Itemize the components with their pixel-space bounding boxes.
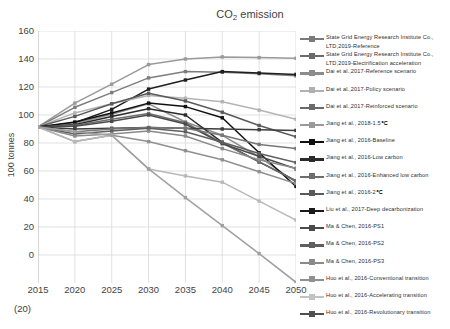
series-marker bbox=[184, 130, 187, 133]
legend-item[interactable]: Huo et al., 2016-Accelerating transition bbox=[300, 291, 450, 302]
plot-background bbox=[38, 31, 296, 283]
legend-marker-icon bbox=[300, 51, 324, 61]
series-marker bbox=[184, 57, 187, 60]
legend-item-label: Jiang et al., 2016-Baseline bbox=[326, 136, 395, 145]
series-marker bbox=[184, 113, 187, 116]
series-marker bbox=[294, 129, 296, 132]
series-marker bbox=[184, 134, 187, 137]
legend-item[interactable]: Jiang et al., 2018-1.5℃ bbox=[300, 119, 450, 130]
chart-title: CO2 emission bbox=[175, 8, 325, 22]
x-axis-tick-label: 2045 bbox=[249, 285, 270, 295]
legend-marker-icon bbox=[300, 258, 324, 268]
legend-item[interactable]: Dai et al.,2017-Reinforced scenario bbox=[300, 102, 450, 113]
series-marker bbox=[221, 181, 224, 184]
series-marker bbox=[184, 122, 187, 125]
series-marker bbox=[147, 87, 150, 90]
legend-marker-icon bbox=[300, 103, 324, 113]
legend-item[interactable]: Huo et al., 2016-Revolutionary transitio… bbox=[300, 308, 450, 319]
legend-marker-icon bbox=[300, 86, 324, 96]
legend-item[interactable]: Ma & Chen, 2016-PS1 bbox=[300, 222, 450, 233]
chart-title-tail: emission bbox=[237, 8, 283, 20]
series-marker bbox=[221, 100, 224, 103]
y-axis-tick-label: 160 bbox=[2, 26, 34, 36]
y-axis-tick-label: 140 bbox=[2, 54, 34, 64]
y-axis-tick-label: 120 bbox=[2, 82, 34, 92]
legend-item[interactable]: Dai et al.,2017-Reference scenario bbox=[300, 67, 450, 78]
series-marker bbox=[257, 143, 260, 146]
legend-item[interactable]: Jiang et al., 2016-Enhanced low carbon bbox=[300, 171, 450, 182]
series-marker bbox=[110, 134, 113, 137]
legend-item[interactable]: Ma & Chen, 2016-PS3 bbox=[300, 257, 450, 268]
series-marker bbox=[73, 106, 76, 109]
series-marker bbox=[294, 57, 296, 60]
series-marker bbox=[221, 111, 224, 114]
legend-item-label: Dai et al.,2017-Reinforced scenario bbox=[326, 102, 418, 111]
series-marker bbox=[73, 115, 76, 118]
y-axis-tick-label: 100 bbox=[2, 110, 34, 120]
legend-item-label: Jiang et al., 2016-2℃ bbox=[326, 188, 383, 197]
series-marker bbox=[257, 152, 260, 155]
legend-marker-icon bbox=[300, 137, 324, 147]
chart-page: CO2 emission 020406080100120140160 100 t… bbox=[0, 0, 450, 329]
series-marker bbox=[110, 102, 113, 105]
series-marker bbox=[184, 127, 187, 130]
series-marker bbox=[147, 92, 150, 95]
legend-item-label: Dai et al.,2017-Reference scenario bbox=[326, 67, 416, 76]
plot-area bbox=[38, 31, 296, 283]
legend-marker-icon bbox=[300, 154, 324, 164]
legend-item[interactable]: Jiang et al., 2016-Low carbon bbox=[300, 153, 450, 164]
series-marker bbox=[257, 158, 260, 161]
series-marker bbox=[184, 196, 187, 199]
series-marker bbox=[184, 105, 187, 108]
series-marker bbox=[257, 199, 260, 202]
chart-title-main: CO bbox=[216, 8, 233, 20]
legend-item[interactable]: Liu et al., 2017-Deep decarbonization bbox=[300, 205, 450, 216]
legend-item-label: Jiang et al., 2016-Low carbon bbox=[326, 153, 403, 162]
series-marker bbox=[73, 101, 76, 104]
x-axis-tick-label: 2025 bbox=[101, 285, 122, 295]
legend-marker-icon bbox=[300, 309, 324, 319]
legend-item[interactable]: State Grid Energy Research Institute Co.… bbox=[300, 50, 450, 67]
series-marker bbox=[184, 149, 187, 152]
legend-marker-icon bbox=[300, 206, 324, 216]
legend-item[interactable]: Ma & Chen, 2016-PS2 bbox=[300, 239, 450, 250]
legend-marker-icon bbox=[300, 275, 324, 285]
legend-item[interactable]: Huo et al., 2016-Conventional transition bbox=[300, 274, 450, 285]
series-marker bbox=[147, 101, 150, 104]
legend-marker-icon bbox=[300, 189, 324, 199]
series-marker bbox=[147, 113, 150, 116]
series-marker bbox=[221, 147, 224, 150]
legend-item[interactable]: Jiang et al., 2016-2℃ bbox=[300, 188, 450, 199]
legend-item[interactable]: Jiang et al., 2016-Baseline bbox=[300, 136, 450, 147]
series-marker bbox=[147, 107, 150, 110]
legend-marker-icon bbox=[300, 68, 324, 78]
legend-item-label: Ma & Chen, 2016-PS2 bbox=[326, 239, 384, 248]
legend-marker-icon bbox=[300, 240, 324, 250]
legend-item-label: Ma & Chen, 2016-PS3 bbox=[326, 257, 384, 266]
series-marker bbox=[110, 91, 113, 94]
x-axis-tick-label: 2020 bbox=[64, 285, 85, 295]
x-axis-tick-label: 2030 bbox=[138, 285, 159, 295]
legend-item-label: State Grid Energy Research Institute Co.… bbox=[326, 33, 450, 50]
series-marker bbox=[294, 167, 296, 170]
series-marker bbox=[257, 124, 260, 127]
legend-item-label: Jiang et al., 2018-1.5℃ bbox=[326, 119, 388, 128]
legend-item[interactable]: State Grid Energy Research Institute Co.… bbox=[300, 33, 450, 50]
legend-marker-icon bbox=[300, 223, 324, 233]
series-marker bbox=[221, 141, 224, 144]
series-marker bbox=[73, 130, 76, 133]
series-marker bbox=[257, 56, 260, 59]
series-marker bbox=[110, 120, 113, 123]
series-marker bbox=[147, 140, 150, 143]
series-marker bbox=[184, 78, 187, 81]
series-marker bbox=[221, 70, 224, 73]
y-axis-label: 100 tonnes bbox=[6, 120, 16, 190]
series-marker bbox=[221, 158, 224, 161]
series-marker bbox=[294, 218, 296, 221]
legend-item[interactable]: Dai et al.,2017-Policy scenario bbox=[300, 85, 450, 96]
legend-item-label: Liu et al., 2017-Deep decarbonization bbox=[326, 205, 423, 214]
series-marker bbox=[110, 111, 113, 114]
series-marker bbox=[38, 125, 40, 128]
series-marker bbox=[257, 128, 260, 131]
legend-marker-icon bbox=[300, 292, 324, 302]
